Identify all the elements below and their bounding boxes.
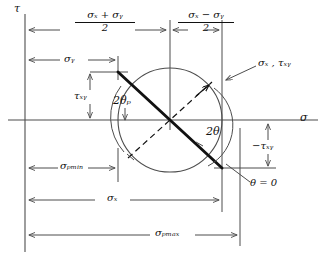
sigma-pmax-label: σₚₘₐₓ — [155, 228, 179, 238]
axis-group — [8, 14, 318, 252]
sigma-y-label: σᵧ — [64, 54, 75, 64]
sigma-x-label: σₓ — [107, 193, 117, 203]
sigma-pmin-label: σₚₘᵢₙ — [60, 161, 83, 171]
sigma-average-denominator: 2 — [75, 23, 135, 34]
tau-xy-label: τₓᵧ — [74, 91, 87, 101]
circle-radius-denominator: 2 — [178, 23, 234, 34]
two-theta-label: 2θ — [206, 126, 220, 137]
sigma-axis-label: σ — [300, 112, 308, 123]
circle-radius-numerator: σₓ − σᵧ — [178, 10, 234, 21]
leader-theta-zero — [226, 164, 250, 182]
tau-axis-label: τ — [14, 3, 20, 14]
circle-radius-fraction: σₓ − σᵧ 2 — [178, 10, 234, 33]
figure-canvas — [0, 0, 326, 260]
leader-sx-txy — [226, 66, 256, 80]
point-sx-txy-label: σₓ , τₓᵧ — [258, 58, 291, 68]
mohrs-circle-figure: τ σ σₓ + σᵧ 2 σₓ − σᵧ 2 σᵧ τₓᵧ −τₓᵧ σₓ ,… — [0, 0, 326, 260]
sigma-average-numerator: σₓ + σᵧ — [75, 10, 135, 21]
neg-tau-xy-label: −τₓᵧ — [252, 141, 273, 151]
dashed-direction-arrow — [196, 85, 209, 96]
theta-zero-label: θ = 0 — [250, 178, 277, 188]
sigma-average-fraction: σₓ + σᵧ 2 — [75, 10, 135, 33]
two-theta-p-label: 2θₚ — [113, 95, 131, 106]
